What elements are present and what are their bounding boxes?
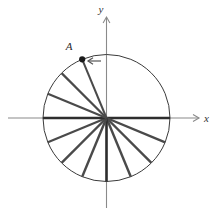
point-a-group: A xyxy=(65,40,85,62)
figure-canvas: A x y xyxy=(0,0,214,215)
point-a-marker xyxy=(79,56,85,62)
x-axis-label: x xyxy=(203,112,209,124)
point-a-label: A xyxy=(65,40,73,52)
spoke-n45deg xyxy=(107,118,152,163)
direction-arrow-group xyxy=(88,58,101,64)
spoke-n135deg xyxy=(62,118,107,163)
spoke-135deg xyxy=(62,73,107,118)
unit-circle-diagram: A x y xyxy=(0,0,214,215)
y-axis-label: y xyxy=(98,3,104,15)
